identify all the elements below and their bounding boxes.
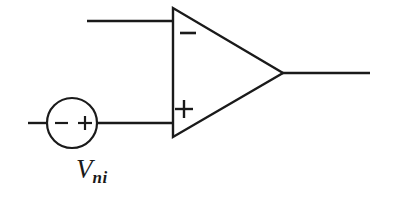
voltage-source-label-subscript: ni — [93, 168, 108, 187]
source-positive-terminal-icon — [78, 116, 92, 130]
schematic-canvas: Vni — [0, 0, 393, 197]
opamp-triangle — [173, 8, 283, 137]
opamp-noninverting-plus-icon — [175, 100, 193, 118]
voltage-source-label: Vni — [76, 156, 108, 186]
voltage-source-label-main: V — [76, 154, 93, 184]
circuit-schematic — [0, 0, 393, 197]
